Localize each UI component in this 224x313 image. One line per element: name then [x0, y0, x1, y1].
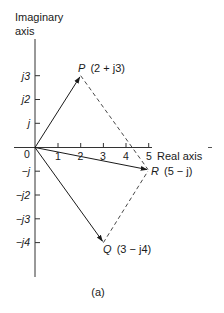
imag-tick-neg-j3: −j3	[16, 213, 30, 225]
phasor-q-arrow	[35, 148, 103, 242]
real-axis-ticks	[58, 143, 149, 148]
imag-tick-neg-j4: −j4	[16, 236, 30, 248]
phasor-r-name: R	[151, 165, 159, 177]
real-tick-5: 5	[146, 150, 152, 162]
imaginary-axis-ticks	[35, 76, 40, 243]
imag-tick-neg-j2: −j2	[16, 189, 30, 201]
phasor-r-arrow	[35, 148, 147, 170]
imaginary-axis-label-line1: Imaginary	[15, 11, 64, 23]
dashed-line-p-to-r	[81, 76, 148, 170]
phasor-r-value: (5 − j)	[164, 165, 192, 177]
phasor-q-value: (3 − j4)	[117, 243, 152, 255]
imaginary-axis-label-line2: axis	[15, 25, 35, 37]
phasor-p-value: (2 + j3)	[90, 62, 125, 74]
phasor-r-label: R (5 − j)	[151, 165, 192, 177]
real-axis-label: Real axis	[157, 150, 203, 162]
imag-tick-neg-j: −j	[22, 165, 31, 177]
phasor-p-name: P	[78, 62, 86, 74]
complex-plane-diagram: Imaginary axis 1 2 3 4 5 Real axis 0 j3 …	[0, 0, 224, 313]
phasor-p-label: P (2 + j3)	[78, 62, 125, 74]
phasor-p-arrow	[35, 77, 80, 148]
origin-label: 0	[24, 148, 30, 160]
imag-tick-j2: j2	[20, 93, 30, 105]
real-tick-4: 4	[123, 150, 129, 162]
phasor-q-name: Q	[103, 243, 112, 255]
figure-caption: (a)	[91, 286, 104, 298]
phasor-q-label: Q (3 − j4)	[103, 243, 151, 255]
imag-tick-j: j	[26, 117, 31, 129]
dashed-line-q-to-r	[103, 171, 148, 243]
imag-tick-j3: j3	[20, 70, 30, 82]
